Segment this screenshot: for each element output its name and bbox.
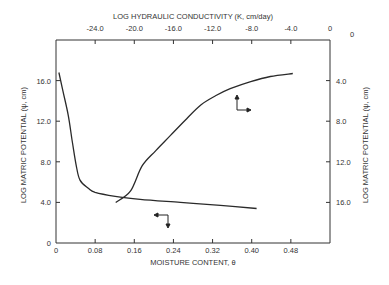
plot-frame	[56, 40, 330, 243]
bottom-tick-label: 0	[54, 246, 58, 255]
top-tick-label: -8.0	[245, 24, 258, 33]
retention-axes-indicator-icon	[154, 213, 170, 228]
top-tick-label: -24.0	[87, 24, 104, 33]
left-tick-label: 0	[47, 239, 51, 248]
bottom-tick-labels: 00.080.160.240.320.400.48	[54, 246, 298, 255]
top-tick-label: -16.0	[165, 24, 182, 33]
top-tick-label: -12.0	[204, 24, 221, 33]
left-tick-labels: 04.08.012.016.0	[36, 77, 51, 248]
bottom-tick-label: 0.40	[244, 246, 259, 255]
left-axis-title: LOG MATRIC POTENTIAL (ψ, cm)	[19, 86, 28, 203]
right-tick-label: 4.0	[336, 77, 346, 86]
bottom-tick-label: 0.32	[205, 246, 220, 255]
top-tick-label: -4.0	[284, 24, 297, 33]
right-corner-zero: 0	[350, 30, 354, 39]
retention-curve	[59, 73, 257, 209]
bottom-axis-title: MOISTURE CONTENT, θ	[150, 258, 235, 267]
bottom-tick-label: 0.24	[166, 246, 181, 255]
right-tick-labels: 4.08.012.016.0	[336, 77, 351, 208]
conductivity-axes-indicator-icon	[235, 95, 251, 112]
top-tick-label: -20.0	[126, 24, 143, 33]
conductivity-curve	[116, 74, 293, 203]
left-tick-label: 12.0	[36, 117, 51, 126]
top-axis-title: LOG HYDRAULIC CONDUCTIVITY (K, cm/day)	[113, 12, 273, 21]
right-tick-label: 16.0	[336, 198, 351, 207]
bottom-tick-label: 0.48	[284, 246, 299, 255]
right-axis-title: LOG MATRIC POTENTIAL (ψ, cm)	[361, 86, 370, 203]
axis-ticks	[56, 40, 330, 243]
top-tick-labels: -24.0-20.0-16.0-12.0-8.0-4.00	[87, 24, 332, 33]
left-tick-label: 16.0	[36, 77, 51, 86]
chart-canvas: 00.080.160.240.320.400.48 -24.0-20.0-16.…	[0, 0, 389, 285]
left-tick-label: 4.0	[41, 198, 51, 207]
top-tick-label: 0	[328, 24, 332, 33]
bottom-tick-label: 0.08	[88, 246, 103, 255]
right-tick-label: 12.0	[336, 158, 351, 167]
right-tick-label: 8.0	[336, 117, 346, 126]
bottom-tick-label: 0.16	[127, 246, 142, 255]
left-tick-label: 8.0	[41, 158, 51, 167]
